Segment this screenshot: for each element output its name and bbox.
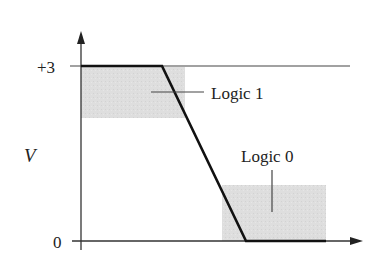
y-axis-label: V — [24, 145, 38, 166]
logic-level-diagram: +3 0 V Logic 1 Logic 0 — [0, 0, 372, 258]
y-axis-arrow-icon — [77, 31, 85, 44]
logic-0-region — [222, 185, 326, 241]
logic-0-label: Logic 0 — [241, 147, 293, 166]
logic-1-label: Logic 1 — [211, 84, 263, 103]
tick-label-plus3: +3 — [37, 58, 55, 77]
tick-label-zero: 0 — [53, 233, 62, 252]
x-axis-arrow-icon — [350, 237, 363, 245]
